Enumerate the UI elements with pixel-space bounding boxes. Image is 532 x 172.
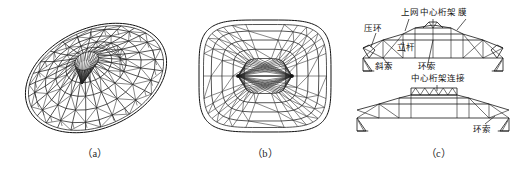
panel-b-drawing <box>185 0 345 145</box>
panel-a-drawing <box>0 0 190 145</box>
cable-dome-mesh-perspective <box>25 23 166 132</box>
label-diagonal-cable: 斜索 <box>375 62 393 71</box>
label-ring-cable: 环索 <box>418 62 436 71</box>
figure-container: （a） （b） 压环 上网 中心桁架 膜 立杆 斜索 环索 中心桁架连接 环索 … <box>0 0 532 172</box>
label-center-truss: 中心桁架 <box>420 8 456 17</box>
label-compression-ring: 压环 <box>364 24 382 33</box>
cable-dome-plan-mesh <box>199 20 331 132</box>
label-membrane: 膜 <box>458 8 467 17</box>
caption-c: （c） <box>345 145 532 160</box>
caption-b: （b） <box>185 145 345 160</box>
caption-a: （a） <box>0 145 190 160</box>
label-upper-net: 上网 <box>401 8 419 17</box>
label-strut: 立杆 <box>397 43 415 52</box>
label-center-truss-connection: 中心桁架连接 <box>411 74 465 83</box>
label-ring-cable-lower: 环索 <box>473 125 491 134</box>
